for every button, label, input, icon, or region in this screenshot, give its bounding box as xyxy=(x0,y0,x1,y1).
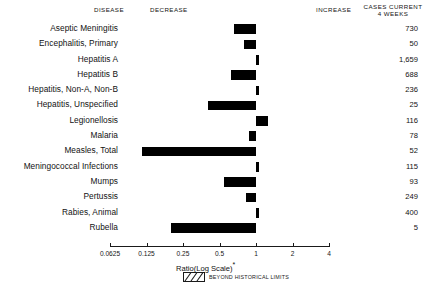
axis-tick xyxy=(293,243,294,248)
cases-value: 50 xyxy=(374,39,418,48)
figure-root: DISEASE DECREASE INCREASE CASES CURRENT … xyxy=(0,0,429,283)
axis-tick xyxy=(110,243,111,248)
chart-row: Aseptic Meningitis730 xyxy=(0,22,429,37)
cases-value: 116 xyxy=(374,116,418,125)
column-header-disease: DISEASE xyxy=(94,6,124,13)
bar-hepatitis-b xyxy=(231,70,256,80)
legend-hatch-icon xyxy=(183,272,205,282)
cases-value: 5 xyxy=(374,223,418,232)
bar-legionellosis xyxy=(256,116,268,126)
cases-value: 1,659 xyxy=(374,55,418,64)
row-label-meningococcal-infections: Meningococcal Infections xyxy=(24,161,118,171)
bar-aseptic-meningitis xyxy=(234,24,256,34)
chart-row: Pertussis249 xyxy=(0,190,429,205)
cases-value: 236 xyxy=(374,85,418,94)
column-header-cases-line2: 4 WEEKS xyxy=(363,10,423,17)
row-label-encephalitis-primary: Encephalitis, Primary xyxy=(39,38,118,48)
chart-row: Rabies, Animal400 xyxy=(0,206,429,221)
axis-title: Ratio(Log Scale)* xyxy=(176,261,235,273)
axis-tick-label: 1 xyxy=(254,250,258,257)
axis-tick xyxy=(147,243,148,248)
bar-meningococcal-infections xyxy=(256,162,259,172)
row-label-hepatitis-b: Hepatitis B xyxy=(77,69,118,79)
chart-row: Hepatitis A1,659 xyxy=(0,53,429,68)
row-label-legionellosis: Legionellosis xyxy=(69,115,118,125)
cases-value: 115 xyxy=(374,162,418,171)
axis-tick-label: 0.0625 xyxy=(100,250,120,257)
row-label-malaria: Malaria xyxy=(90,130,118,140)
row-label-hepatitis-non-a-non-b: Hepatitis, Non-A, Non-B xyxy=(28,84,118,94)
axis-tick-label: 0.125 xyxy=(138,250,155,257)
axis-tick xyxy=(220,243,221,248)
chart-row: Encephalitis, Primary50 xyxy=(0,37,429,52)
axis-tick-label: 0.5 xyxy=(215,250,224,257)
bar-hepatitis-unspecified xyxy=(208,101,256,111)
column-header-cases-line1: CASES CURRENT xyxy=(363,3,423,10)
legend-label: BEYOND HISTORICAL LIMITS xyxy=(209,274,289,280)
chart-row: Hepatitis, Non-A, Non-B236 xyxy=(0,83,429,98)
bar-rabies-animal xyxy=(256,208,259,218)
cases-value: 93 xyxy=(374,177,418,186)
chart-row: Hepatitis, Unspecified25 xyxy=(0,98,429,113)
row-label-measles-total: Measles, Total xyxy=(64,145,118,155)
bar-pertussis xyxy=(246,193,256,203)
legend: BEYOND HISTORICAL LIMITS xyxy=(183,272,289,282)
axis-tick xyxy=(256,243,257,248)
row-label-hepatitis-a: Hepatitis A xyxy=(78,54,118,64)
axis-tick-label: 4 xyxy=(327,250,331,257)
bar-encephalitis-primary xyxy=(244,40,256,50)
chart-row: Mumps93 xyxy=(0,175,429,190)
bar-hepatitis-a xyxy=(256,55,259,65)
bar-measles-total xyxy=(142,147,256,157)
x-axis: 0.06250.1250.250.5124 Ratio(Log Scale)* … xyxy=(0,246,429,283)
cases-value: 52 xyxy=(374,146,418,155)
bar-mumps xyxy=(224,177,256,187)
chart-rows: Aseptic Meningitis730Encephalitis, Prima… xyxy=(0,22,429,236)
cases-value: 78 xyxy=(374,131,418,140)
bar-hepatitis-non-a-non-b xyxy=(256,86,259,96)
row-label-rabies-animal: Rabies, Animal xyxy=(62,207,118,217)
row-label-rubella: Rubella xyxy=(90,222,119,232)
axis-tick xyxy=(329,243,330,248)
bar-malaria xyxy=(249,131,256,141)
axis-tick-label: 2 xyxy=(291,250,295,257)
cases-value: 688 xyxy=(374,70,418,79)
cases-value: 400 xyxy=(374,208,418,217)
chart-row: Measles, Total52 xyxy=(0,144,429,159)
chart-row: Hepatitis B688 xyxy=(0,68,429,83)
cases-value: 730 xyxy=(374,24,418,33)
axis-tick xyxy=(183,243,184,248)
row-label-hepatitis-unspecified: Hepatitis, Unspecified xyxy=(37,99,118,109)
chart-row: Rubella5 xyxy=(0,221,429,236)
bar-rubella xyxy=(171,223,256,233)
row-label-pertussis: Pertussis xyxy=(83,191,118,201)
row-label-mumps: Mumps xyxy=(91,176,118,186)
cases-value: 249 xyxy=(374,192,418,201)
chart-row: Legionellosis116 xyxy=(0,114,429,129)
row-label-aseptic-meningitis: Aseptic Meningitis xyxy=(50,23,118,33)
column-header-cases: CASES CURRENT 4 WEEKS xyxy=(363,3,423,18)
chart-row: Malaria78 xyxy=(0,129,429,144)
chart-row: Meningococcal Infections115 xyxy=(0,160,429,175)
column-header-decrease: DECREASE xyxy=(150,6,188,13)
column-header-increase: INCREASE xyxy=(316,6,351,13)
axis-title-marker: * xyxy=(233,261,236,268)
axis-tick-label: 0.25 xyxy=(177,250,190,257)
cases-value: 25 xyxy=(374,100,418,109)
